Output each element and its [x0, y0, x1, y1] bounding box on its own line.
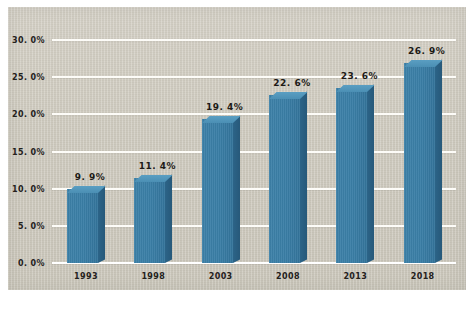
x-axis-tick-label: 2013	[336, 272, 374, 281]
bar-front-face	[269, 95, 300, 263]
y-axis-tick-label: 25. 0%	[12, 73, 45, 82]
y-axis-tick-label: 5. 0%	[18, 221, 45, 230]
bar-front-face	[202, 119, 233, 263]
y-axis-tick-label: 20. 0%	[12, 110, 45, 119]
bar-2013[interactable]: 23. 6%2013	[336, 88, 367, 263]
bar-1998[interactable]: 11. 4%1998	[134, 178, 165, 263]
bar-group[interactable]: 11. 4%1998	[119, 40, 186, 263]
bar-group[interactable]: 19. 4%2003	[187, 40, 254, 263]
bar-value-label: 9. 9%	[64, 172, 116, 182]
y-axis-tick-label: 15. 0%	[12, 147, 45, 156]
bar-value-label: 11. 4%	[131, 161, 183, 171]
bar-value-label: 22. 6%	[266, 78, 318, 88]
y-axis-tick-label: 30. 0%	[12, 36, 45, 45]
bar-side-face	[367, 84, 374, 263]
x-axis-tick-label: 2008	[269, 272, 307, 281]
x-axis-tick-label: 2003	[202, 272, 240, 281]
bar-side-face	[435, 60, 442, 263]
bar-side-face	[165, 175, 172, 263]
bar-side-face	[233, 115, 240, 263]
chart-canvas: 0. 0%5. 0%10. 0%15. 0%20. 0%25. 0%30. 0%…	[8, 7, 466, 290]
chart-page: 0. 0%5. 0%10. 0%15. 0%20. 0%25. 0%30. 0%…	[0, 0, 474, 309]
bar-2018[interactable]: 26. 9%2018	[404, 63, 435, 263]
plot-area: 0. 0%5. 0%10. 0%15. 0%20. 0%25. 0%30. 0%…	[52, 40, 456, 263]
bar-front-face	[336, 88, 367, 263]
bar-group[interactable]: 23. 6%2013	[321, 40, 388, 263]
bar-2003[interactable]: 19. 4%2003	[202, 119, 233, 263]
bar-group[interactable]: 26. 9%2018	[389, 40, 456, 263]
bar-front-face	[404, 63, 435, 263]
bar-1993[interactable]: 9. 9%1993	[67, 189, 98, 263]
y-axis-tick-label: 10. 0%	[12, 184, 45, 193]
y-axis-tick-label: 0. 0%	[18, 259, 45, 268]
bar-front-face	[67, 189, 98, 263]
x-axis-tick-label: 1998	[134, 272, 172, 281]
bar-value-label: 23. 6%	[333, 71, 385, 81]
bar-value-label: 26. 9%	[401, 46, 453, 56]
bar-side-face	[300, 92, 307, 263]
bar-group[interactable]: 22. 6%2008	[254, 40, 321, 263]
x-axis-tick-label: 1993	[67, 272, 105, 281]
bar-front-face	[134, 178, 165, 263]
bar-side-face	[98, 186, 105, 263]
bar-group[interactable]: 9. 9%1993	[52, 40, 119, 263]
bar-value-label: 19. 4%	[199, 102, 251, 112]
x-axis-tick-label: 2018	[404, 272, 442, 281]
bar-2008[interactable]: 22. 6%2008	[269, 95, 300, 263]
